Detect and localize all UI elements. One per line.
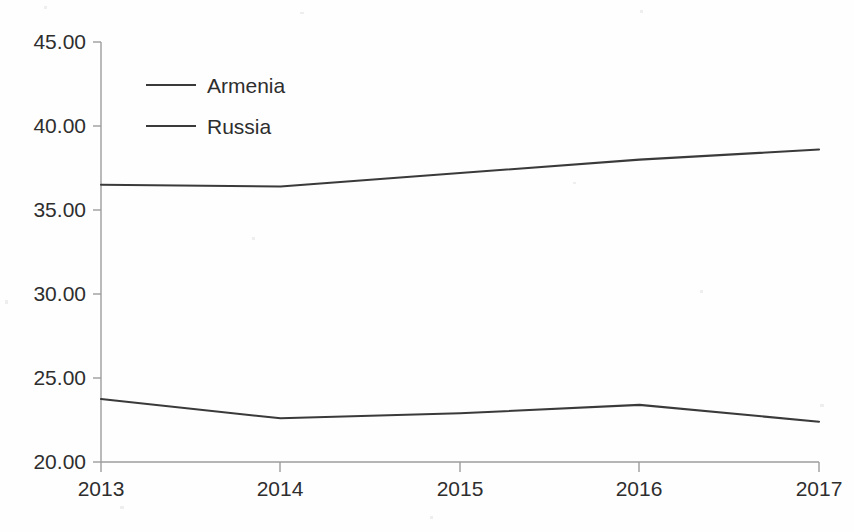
x-tick-label: 2016 [616,477,663,500]
line-chart: 45.00 40.00 35.00 30.00 25.00 20.00 2013… [0,0,854,532]
y-tick-label: 30.00 [33,282,86,305]
x-tick-label: 2014 [257,477,304,500]
y-tick-label: 25.00 [33,366,86,389]
y-tick-label: 35.00 [33,198,86,221]
y-tick-label: 20.00 [33,450,86,473]
x-tick-label: 2015 [437,477,484,500]
chart-canvas: 45.00 40.00 35.00 30.00 25.00 20.00 2013… [0,0,854,532]
x-tick-label: 2013 [78,477,125,500]
legend-label: Armenia [207,74,286,97]
y-tick-label: 40.00 [33,114,86,137]
legend-label: Russia [207,115,272,138]
chart-background [0,0,854,532]
x-tick-label: 2017 [796,477,843,500]
y-tick-label: 45.00 [33,30,86,53]
